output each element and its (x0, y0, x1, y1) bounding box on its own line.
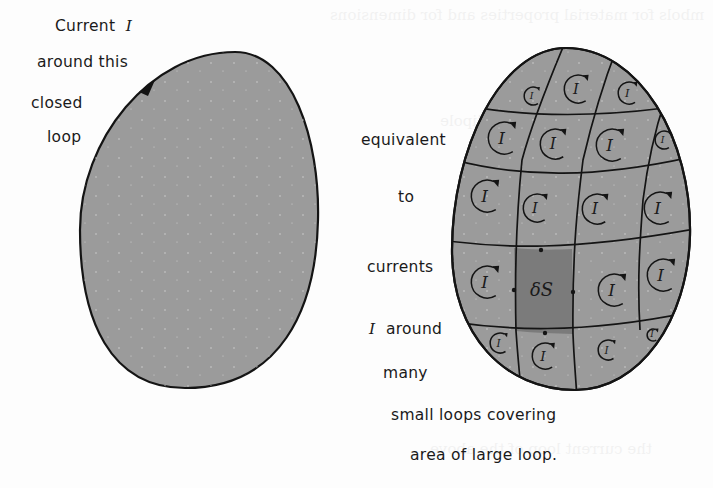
cell-current-symbol: I (497, 128, 505, 148)
middle-caption-line-2: to (398, 188, 414, 206)
figure-canvas: mbols for material properties and for di… (0, 0, 713, 488)
cell-current-symbol: I (605, 135, 613, 155)
cell-current-symbol: I (480, 186, 488, 206)
cell-current-symbol: I (624, 86, 630, 100)
diagram-svg: IIIIIIIIIIIIIIIIII δS (0, 0, 713, 488)
left-caption-line-2: around this (37, 53, 128, 71)
cell-current-symbol: I (603, 344, 609, 356)
middle-caption-line-3: currents (367, 258, 433, 276)
left-caption-line-1: Current I (55, 17, 132, 35)
middle-caption-line-4: I around (369, 320, 442, 338)
middle-caption-line-7: area of large loop. (410, 446, 557, 464)
cell-current-symbol: I (529, 90, 534, 101)
caption-text: around (386, 320, 442, 338)
cell-current-symbol: I (480, 272, 488, 292)
cell-current-symbol: I (649, 329, 654, 339)
cell-current-symbol: I (495, 337, 501, 349)
element-label: δS (530, 279, 553, 300)
cell-current-symbol: I (653, 198, 661, 218)
middle-caption-line-1: equivalent (361, 131, 446, 149)
cell-current-symbol: I (607, 280, 615, 300)
middle-caption-line-5: many (383, 364, 428, 382)
cell-current-symbol: I (591, 199, 599, 218)
current-symbol: I (126, 17, 132, 35)
cell-current-symbol: I (531, 199, 539, 216)
middle-caption-line-6: small loops covering (391, 406, 556, 424)
left-caption-line-4: loop (47, 128, 81, 146)
current-symbol: I (369, 320, 375, 338)
cell-current-symbol: I (549, 134, 557, 153)
equivalent-loop-grid: IIIIIIIIIIIIIIIIII δS (440, 40, 700, 400)
caption-text: Current (55, 17, 115, 35)
cell-current-symbol: I (656, 265, 664, 285)
cell-current-symbol: I (539, 348, 546, 364)
cell-current-symbol: I (572, 80, 580, 97)
cell-current-symbol: I (660, 134, 665, 145)
left-caption-line-3: closed (31, 94, 83, 112)
large-current-loop (80, 52, 318, 388)
